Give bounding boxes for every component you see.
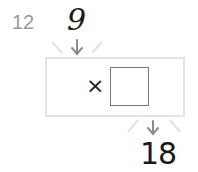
input-arrow-icon	[72, 40, 82, 54]
output-arrow-icon	[148, 121, 158, 134]
problem-number: 12	[12, 11, 34, 34]
answer-input-box[interactable]	[110, 67, 149, 106]
output-funnel-right	[170, 120, 180, 132]
output-funnel-left	[128, 120, 138, 132]
input-value: 9	[67, 2, 86, 37]
multiply-operator: ×	[86, 73, 104, 98]
input-funnel-left	[52, 42, 62, 53]
input-funnel-right	[92, 42, 102, 53]
output-value: 18	[140, 136, 176, 171]
